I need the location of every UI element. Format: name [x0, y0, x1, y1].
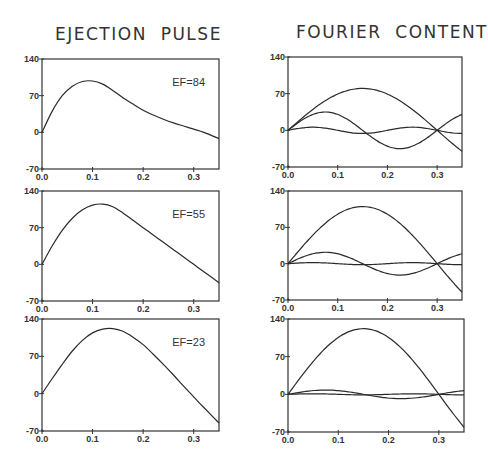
- x-tick-label: 0.2: [381, 303, 394, 313]
- series-harmonic-1: [288, 88, 462, 151]
- x-tick-label: 0.0: [36, 434, 49, 444]
- y-tick-label: 140: [270, 186, 285, 196]
- y-tick-label: 140: [270, 52, 285, 62]
- x-tick-label: 0.0: [36, 172, 49, 182]
- plot-frame: [288, 191, 462, 300]
- y-tick-label: 70: [29, 91, 39, 101]
- series-pulse: [42, 81, 219, 139]
- x-tick-label: 0.1: [86, 304, 99, 314]
- x-tick-label: 0.0: [36, 304, 49, 314]
- y-tick-label: 0: [34, 127, 39, 137]
- x-tick-label: 0.2: [137, 304, 150, 314]
- plot-right-3: -700701400.00.10.20.3: [270, 314, 464, 445]
- y-tick-label: 140: [24, 186, 39, 196]
- series-harmonic-1: [288, 329, 464, 427]
- y-tick-label: 70: [275, 352, 285, 362]
- y-tick-label: 70: [275, 222, 285, 232]
- x-tick-label: 0.0: [282, 435, 295, 445]
- plot-right-2: -700701400.00.10.20.3: [270, 186, 462, 313]
- x-tick-label: 0.3: [431, 303, 444, 313]
- plot-left-2: -700701400.00.10.20.3EF=55: [24, 186, 219, 314]
- series-harmonic-3: [288, 394, 464, 395]
- y-tick-label: 70: [275, 89, 285, 99]
- x-tick-label: 0.2: [137, 172, 150, 182]
- ef-annotation: EF=23: [172, 336, 205, 348]
- y-tick-label: 0: [34, 259, 39, 269]
- x-tick-label: 0.0: [282, 170, 295, 180]
- x-tick-label: 0.2: [381, 170, 394, 180]
- x-tick-label: 0.3: [187, 172, 200, 182]
- x-tick-label: 0.3: [431, 170, 444, 180]
- x-tick-label: 0.1: [332, 435, 345, 445]
- x-tick-label: 0.1: [331, 303, 344, 313]
- x-tick-label: 0.0: [282, 303, 295, 313]
- ef-annotation: EF=84: [172, 76, 205, 88]
- plot-frame: [288, 319, 464, 432]
- x-tick-label: 0.1: [86, 434, 99, 444]
- x-tick-label: 0.3: [433, 435, 446, 445]
- ef-annotation: EF=55: [172, 208, 205, 220]
- y-tick-label: 70: [29, 351, 39, 361]
- y-tick-label: 0: [34, 389, 39, 399]
- x-tick-label: 0.2: [137, 434, 150, 444]
- plot-frame: [288, 57, 462, 167]
- y-tick-label: 0: [280, 125, 285, 135]
- series-harmonic-3: [288, 127, 462, 133]
- plot-left-3: -700701400.00.10.20.3EF=23: [24, 314, 219, 444]
- x-tick-label: 0.3: [187, 304, 200, 314]
- series-harmonic-1: [288, 207, 462, 293]
- y-tick-label: 0: [280, 389, 285, 399]
- y-tick-label: 140: [270, 314, 285, 324]
- y-tick-label: 140: [24, 54, 39, 64]
- y-tick-label: 70: [29, 223, 39, 233]
- plot-left-1: -700701400.00.10.20.3EF=84: [24, 54, 219, 182]
- y-tick-label: 0: [280, 259, 285, 269]
- x-tick-label: 0.1: [331, 170, 344, 180]
- x-tick-label: 0.1: [86, 172, 99, 182]
- x-tick-label: 0.2: [382, 435, 395, 445]
- y-tick-label: 140: [24, 314, 39, 324]
- plot-right-1: -700701400.00.10.20.3: [270, 52, 462, 180]
- x-tick-label: 0.3: [187, 434, 200, 444]
